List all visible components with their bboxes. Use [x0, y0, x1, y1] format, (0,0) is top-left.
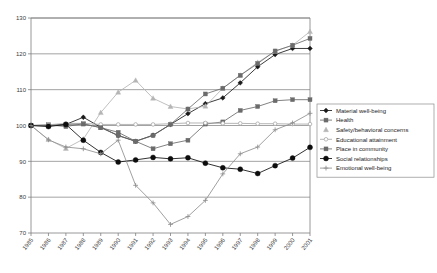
data-point-marker [151, 134, 155, 138]
data-point-marker [116, 123, 120, 127]
data-point-marker [81, 115, 86, 120]
data-point-marker [221, 122, 225, 126]
x-tick-label: 1986 [39, 236, 52, 251]
x-tick-label: 1993 [161, 236, 174, 251]
x-axis-ticks: 1985198619871988198919901991199219931994… [21, 233, 313, 251]
x-tick-label: 2001 [300, 236, 313, 251]
data-point-marker [63, 122, 68, 127]
data-point-marker [256, 105, 260, 109]
data-point-marker [151, 155, 156, 160]
x-tick-label: 1987 [56, 236, 69, 251]
data-point-marker [256, 62, 260, 66]
data-point-marker [116, 134, 120, 138]
data-point-marker [169, 142, 173, 146]
legend-item-safety-behavioral-concerns[interactable]: Safety/behavioral concerns [324, 127, 409, 133]
legend-item-label: Emotional well-being [336, 165, 391, 171]
y-tick-label: 80 [19, 194, 26, 200]
y-tick-label: 100 [16, 123, 27, 129]
data-point-marker [133, 78, 138, 83]
data-point-marker [238, 108, 242, 112]
data-point-marker [168, 104, 173, 109]
y-tick-label: 90 [19, 159, 26, 165]
series-social-relationships [29, 122, 313, 176]
x-tick-label: 1990 [109, 236, 122, 251]
x-tick-label: 1988 [74, 236, 87, 251]
x-tick-label: 1992 [143, 236, 156, 251]
data-point-marker [238, 122, 242, 126]
data-point-marker [99, 126, 103, 130]
legend-item-label: Social relationships [336, 156, 388, 162]
data-point-marker [273, 163, 278, 168]
data-point-marker [324, 118, 328, 122]
x-tick-label: 1994 [178, 236, 191, 251]
data-point-marker [256, 122, 260, 126]
data-point-marker [185, 155, 190, 160]
data-point-marker [116, 90, 121, 95]
data-point-marker [169, 122, 173, 126]
data-point-marker [186, 138, 190, 142]
data-point-marker [324, 147, 328, 151]
legend-item-label: Material well-being [336, 108, 386, 114]
x-tick-label: 2000 [283, 236, 296, 251]
x-tick-label: 1997 [231, 236, 244, 251]
data-point-marker [134, 139, 138, 143]
data-point-marker [151, 147, 155, 151]
data-point-marker [308, 111, 313, 116]
data-point-marker [203, 92, 207, 96]
y-tick-label: 120 [16, 51, 27, 57]
series-line [31, 48, 310, 141]
data-point-marker [308, 145, 313, 150]
data-point-marker [273, 99, 277, 103]
data-point-marker [203, 161, 208, 166]
data-point-marker [151, 123, 155, 127]
data-point-marker [308, 46, 313, 51]
data-point-marker [186, 107, 190, 111]
legend-item-label: Health [336, 117, 353, 123]
data-point-marker [81, 138, 86, 143]
data-point-marker [290, 156, 295, 161]
data-point-marker [308, 36, 312, 40]
x-tick-label: 1998 [248, 236, 261, 251]
data-point-marker [221, 86, 225, 90]
legend-item-label: Place in community [336, 146, 388, 152]
data-point-marker [324, 156, 329, 161]
data-point-marker [308, 98, 312, 102]
chart-legend: Material well-beingHealthSafety/behavior… [317, 104, 434, 177]
legend-item-label: Safety/behavioral concerns [336, 127, 408, 133]
data-point-marker [273, 122, 277, 126]
series-emotional-well-being [29, 111, 313, 227]
x-tick-label: 1996 [213, 236, 226, 251]
data-point-marker [308, 29, 313, 34]
data-point-marker [308, 122, 312, 126]
data-point-marker [220, 165, 225, 170]
y-tick-label: 110 [16, 87, 26, 93]
data-point-marker [291, 98, 295, 102]
legend-item-label: Educational attainment [336, 137, 397, 143]
data-point-marker [81, 122, 85, 126]
x-tick-label: 1995 [196, 236, 209, 251]
data-point-marker [116, 160, 121, 165]
x-tick-label: 1985 [21, 236, 34, 251]
x-tick-label: 1989 [91, 236, 104, 251]
series-line [31, 124, 310, 173]
data-point-marker [134, 123, 138, 127]
data-point-marker [204, 121, 208, 125]
x-tick-label: 1999 [265, 236, 278, 251]
x-tick-label: 1991 [126, 236, 139, 251]
data-point-marker [238, 167, 243, 172]
data-point-marker [255, 171, 260, 176]
line-chart: 130120110100908070 198519861987198819891… [0, 0, 437, 273]
y-tick-label: 130 [16, 15, 27, 21]
data-point-marker [324, 138, 328, 142]
data-point-marker [81, 146, 86, 151]
y-tick-label: 70 [19, 230, 26, 236]
data-point-marker [291, 43, 295, 47]
data-point-marker [186, 111, 191, 116]
chart-container: 130120110100908070 198519861987198819891… [0, 0, 437, 273]
data-point-marker [46, 124, 51, 129]
data-point-marker [133, 157, 138, 162]
data-point-marker [186, 121, 190, 125]
data-point-marker [168, 156, 173, 161]
data-point-marker [273, 49, 277, 53]
data-point-marker [238, 73, 242, 77]
